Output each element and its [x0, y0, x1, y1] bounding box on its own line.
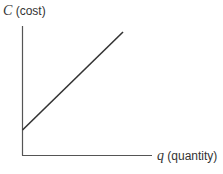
cost-line — [23, 32, 124, 130]
x-axis-unit: (quantity) — [167, 149, 217, 163]
x-axis-variable: q — [157, 148, 164, 163]
y-axis-unit: (cost) — [16, 4, 46, 18]
y-axis-label: C (cost) — [3, 3, 46, 19]
cost-chart: C (cost) q (quantity) — [0, 0, 223, 174]
x-axis-label: q (quantity) — [157, 148, 217, 164]
y-axis-variable: C — [3, 3, 12, 18]
